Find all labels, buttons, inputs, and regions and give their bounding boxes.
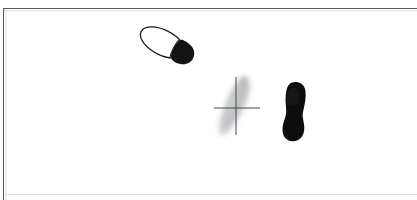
figure-plate [3,8,417,200]
outlined-shoeprint-graphic [134,25,200,69]
solid-sole-graphic [272,77,318,147]
screenshot-root [0,0,417,200]
shoe-heel-fill [168,38,198,69]
figure-outlined-shoeprint [134,25,200,69]
smudge-body [215,72,255,139]
figure-solid-black-sole [272,77,318,147]
figure-faint-partial-print [206,69,266,141]
faint-print-graphic [206,69,266,141]
